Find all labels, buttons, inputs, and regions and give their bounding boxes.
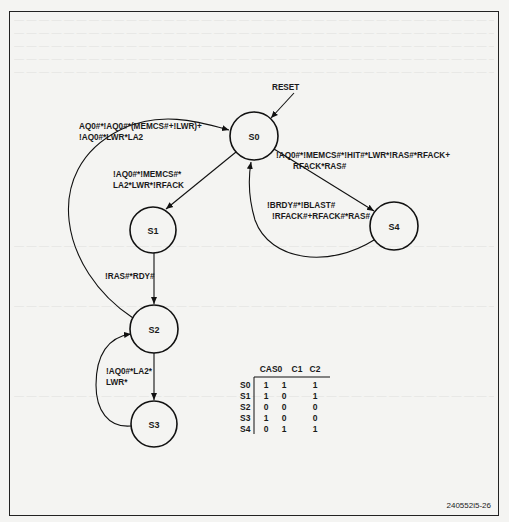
transition-s3-to-s2: !AQ0#*LA2* LWR* [96,334,153,426]
svg-text:!AQ0#*!MEMCS#*!HIT#*LWR*!RAS#*: !AQ0#*!MEMCS#*!HIT#*LWR*!RAS#*RFACK+ [276,151,450,160]
output-table: CAS0 C1 C2 S0 1 1 1 S1 1 0 1 S2 0 0 0 S3… [240,364,330,434]
state-s4: S4 [370,202,418,250]
transition-s2-to-s0: AQ0#*!AQ0#*(MEMCS#+!LWR)+ !AQ0#*LWR*LA2 [68,119,229,318]
svg-text:S4: S4 [388,222,399,232]
svg-text:0: 0 [313,413,318,423]
svg-text:RESET: RESET [272,83,299,92]
svg-text:!AQ0#*LA2*: !AQ0#*LA2* [106,367,153,376]
svg-text:S2: S2 [240,402,251,412]
svg-text:1: 1 [313,380,318,390]
svg-text:!AQ0#*LWR*LA2: !AQ0#*LWR*LA2 [79,133,144,142]
figure-id-label: 240552i5-26 [447,501,491,510]
svg-text:LWR*: LWR* [106,378,128,387]
svg-text:1: 1 [282,380,287,390]
transition-s1-to-s2: !RAS#*RDY# [105,253,155,304]
svg-text:1: 1 [282,424,287,434]
svg-text:C1: C1 [292,364,303,374]
svg-text:0: 0 [264,424,269,434]
svg-text:RFACK*RAS#: RFACK*RAS# [293,162,347,171]
svg-text:S0: S0 [240,380,251,390]
svg-text:1: 1 [264,391,269,401]
transition-s0-to-s1: !AQ0#*!MEMCS#* LA2*LWR*!RFACK [113,152,236,209]
svg-text:1: 1 [264,413,269,423]
svg-text:S4: S4 [240,424,251,434]
svg-text:1: 1 [313,424,318,434]
svg-text:AQ0#*!AQ0#*(MEMCS#+!LWR)+: AQ0#*!AQ0#*(MEMCS#+!LWR)+ [79,122,202,131]
svg-text:!RAS#*RDY#: !RAS#*RDY# [105,272,155,281]
svg-text:LA2*LWR*!RFACK: LA2*LWR*!RFACK [113,181,184,190]
reset-transition: RESET [271,83,299,118]
svg-text:S0: S0 [248,132,259,142]
svg-text:S2: S2 [148,325,159,335]
svg-text:0: 0 [264,402,269,412]
svg-text:0: 0 [282,413,287,423]
state-s1: S1 [130,207,176,253]
svg-text:!BRDY#*!BLAST#: !BRDY#*!BLAST# [267,201,336,210]
svg-text:CAS0: CAS0 [260,364,283,374]
svg-text:0: 0 [313,402,318,412]
state-s3: S3 [131,401,177,447]
svg-text:0: 0 [282,402,287,412]
state-s0: S0 [230,112,278,160]
svg-text:S1: S1 [147,226,158,236]
svg-text:0: 0 [282,391,287,401]
svg-text:S1: S1 [240,391,251,401]
svg-text:!RFACK#+RFACK#*RAS#: !RFACK#+RFACK#*RAS# [272,212,370,221]
transition-s4-to-s0: !BRDY#*!BLAST# !RFACK#+RFACK#*RAS# [249,162,374,257]
state-diagram: S0 S1 S2 S3 S4 RESET AQ0#*!AQ0#*(MEMCS#+… [0,0,509,522]
svg-text:S3: S3 [148,420,159,430]
svg-text:1: 1 [313,391,318,401]
svg-text:S3: S3 [240,413,251,423]
svg-text:C2: C2 [310,364,321,374]
svg-text:1: 1 [264,380,269,390]
state-s2: S2 [130,305,178,353]
svg-text:!AQ0#*!MEMCS#*: !AQ0#*!MEMCS#* [113,170,182,179]
